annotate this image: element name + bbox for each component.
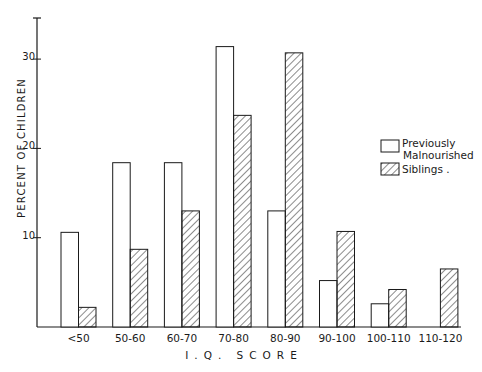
bar-chart: 102030 <5050-6060-7070-8080-9090-100100-…	[0, 0, 482, 372]
siblings-bar	[285, 53, 303, 327]
open-swatch-icon	[381, 140, 399, 152]
bar-group	[61, 232, 96, 327]
malnourished-bar	[113, 163, 131, 327]
legend-label-line2: Malnourished	[403, 149, 474, 161]
bar-group	[216, 47, 251, 327]
bar-group	[268, 53, 303, 327]
malnourished-bar	[164, 163, 182, 327]
x-axis-title: I.Q. SCORE	[185, 349, 303, 361]
siblings-bar	[234, 115, 252, 327]
siblings-bar	[337, 231, 355, 327]
bar-group	[371, 289, 406, 327]
siblings-bar	[182, 211, 200, 327]
x-category-label: 60-70	[167, 332, 198, 344]
x-category-label: 90-100	[318, 332, 355, 344]
siblings-bar	[389, 289, 407, 327]
bar-group	[440, 269, 458, 327]
x-category-label: 110-120	[418, 332, 462, 344]
y-axis-title: PERCENT OF CHILDREN	[16, 78, 27, 218]
siblings-bar	[440, 269, 458, 327]
x-category-label: 70-80	[218, 332, 249, 344]
y-tick-label: 10	[22, 230, 35, 241]
x-category-label: <50	[67, 332, 89, 344]
legend-label-siblings: Siblings .	[402, 163, 450, 175]
legend-item-malnourished: Previously Malnourished	[381, 137, 474, 161]
bar-group	[164, 163, 199, 327]
malnourished-bar	[268, 211, 286, 327]
malnourished-bar	[216, 47, 234, 327]
malnourished-bar	[371, 304, 389, 327]
legend-item-siblings: Siblings .	[381, 163, 450, 175]
malnourished-bar	[61, 232, 79, 327]
category-labels: <5050-6060-7070-8080-9090-100100-110110-…	[67, 332, 462, 344]
legend-label-line1: Previously	[402, 137, 456, 149]
siblings-bar	[79, 307, 97, 327]
legend: Previously Malnourished Siblings .	[381, 137, 474, 175]
malnourished-bar	[320, 281, 338, 327]
x-category-label: 80-90	[270, 332, 301, 344]
x-category-label: 100-110	[367, 332, 411, 344]
x-category-label: 50-60	[115, 332, 146, 344]
hatched-swatch-icon	[381, 163, 399, 175]
bar-group	[113, 163, 148, 327]
bars	[61, 47, 458, 327]
siblings-bar	[130, 249, 148, 327]
bar-group	[320, 231, 355, 327]
y-tick-label: 30	[22, 51, 35, 62]
